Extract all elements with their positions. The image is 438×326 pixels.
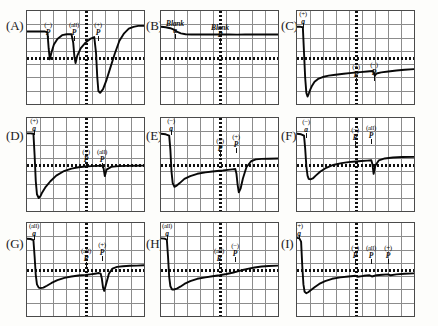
event-label-bottom: a <box>296 18 315 25</box>
event-tick <box>86 262 87 267</box>
plot-area-c: (+)a(+)P(−)P <box>296 10 415 105</box>
signal-trace <box>297 223 414 316</box>
signal-trace <box>27 223 144 316</box>
plot-area-f: (−)a(−)P(all)P <box>296 117 415 212</box>
event-label-bottom: P <box>223 250 247 257</box>
event-label-bottom: a <box>296 126 318 133</box>
event-label: (+)P <box>224 134 248 148</box>
event-label-top: (+) <box>26 118 46 125</box>
event-label-bottom: P <box>90 156 114 163</box>
event-label: (all)P <box>359 125 383 139</box>
event-label: (−)P <box>223 243 247 257</box>
signal-trace <box>161 118 278 211</box>
event-label: (−)P <box>362 62 386 76</box>
event-tick <box>388 259 389 264</box>
event-label: (+)P <box>90 242 114 256</box>
event-label-bottom: P <box>36 29 60 36</box>
panel-letter-a: (A) <box>6 18 23 34</box>
event-tick <box>86 163 87 168</box>
event-label-bottom: P <box>224 141 248 148</box>
event-label-bottom: P <box>376 252 400 259</box>
event-label-bottom: a <box>26 125 46 132</box>
event-label: (+)a <box>296 223 311 237</box>
event-label: (+)P <box>86 22 110 36</box>
event-tick <box>371 139 372 144</box>
panel-letter-g: (G) <box>6 236 23 252</box>
event-tick <box>74 36 75 41</box>
event-label-bottom: a <box>163 27 187 34</box>
figure-panel-grid: (A)(−)P(all)P(+)P(B)BlankaBlankP(C)(+)a(… <box>0 0 438 326</box>
event-label-top: (all) <box>26 223 46 230</box>
event-tick <box>102 256 103 261</box>
signal-trace <box>297 11 414 104</box>
event-tick <box>48 36 49 41</box>
event-tick <box>306 133 307 138</box>
event-label: (all)a <box>160 223 179 237</box>
event-tick <box>102 163 103 168</box>
event-label: (−)P <box>36 22 60 36</box>
event-label: Blanka <box>163 20 187 34</box>
event-label: (+)a <box>296 11 315 25</box>
event-label: (all)a <box>26 223 46 237</box>
event-tick <box>98 36 99 41</box>
event-label-bottom: P <box>208 31 232 38</box>
event-label-bottom: a <box>160 125 183 132</box>
panel-letter-d: (D) <box>6 128 23 144</box>
signal-trace <box>161 223 278 316</box>
event-label: (+)a <box>26 118 46 132</box>
event-tick <box>355 259 356 264</box>
event-label: BlankP <box>208 24 232 38</box>
panel-letter-f: (F) <box>281 128 296 144</box>
event-label-top: (all) <box>160 223 179 230</box>
event-tick <box>355 141 356 146</box>
plot-area-b: BlankaBlankP <box>160 10 279 105</box>
event-label-bottom: P <box>86 29 110 36</box>
event-label: (+)P <box>376 245 400 259</box>
event-label: (all)P <box>90 149 114 163</box>
plot-area-h: (all)a(all)P(−)P <box>160 222 279 317</box>
event-label: (all)P <box>62 22 86 36</box>
plot-area-i: (+)a(−)P(all)P(+)P <box>296 222 415 317</box>
event-label-bottom: a <box>296 230 311 237</box>
event-label: (−)a <box>160 118 183 132</box>
event-label-bottom: a <box>26 230 46 237</box>
plot-area-e: (−)a(−)P(+)P <box>160 117 279 212</box>
event-label-bottom: P <box>90 249 114 256</box>
event-tick <box>374 76 375 81</box>
plot-area-d: (+)a(+)P(all)P <box>26 117 145 212</box>
event-tick <box>236 148 237 153</box>
event-label-bottom: P <box>62 29 86 36</box>
event-tick <box>219 262 220 267</box>
event-label: (−)a <box>296 119 318 133</box>
panel-letter-i: (I) <box>281 236 293 252</box>
event-label-bottom: P <box>359 132 383 139</box>
event-tick <box>371 259 372 264</box>
event-tick <box>356 78 357 83</box>
event-label-top: (+) <box>296 11 315 18</box>
event-label-bottom: a <box>160 230 179 237</box>
plot-area-g: (all)a(all)P(+)P <box>26 222 145 317</box>
plot-area-a: (−)P(all)P(+)P <box>26 10 145 105</box>
event-tick <box>220 152 221 157</box>
event-tick <box>235 257 236 262</box>
event-label-bottom: P <box>362 69 386 76</box>
